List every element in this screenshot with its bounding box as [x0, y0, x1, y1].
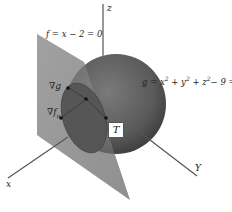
plane-equation: f = x − 2 = 0	[46, 30, 102, 39]
sphere-eq-part: + y	[169, 77, 186, 87]
sphere-eq-part: + z	[190, 77, 207, 87]
grad-g-var: g	[55, 81, 61, 91]
point-grad-g	[66, 86, 70, 90]
x-axis	[8, 137, 68, 178]
diagram-svg	[0, 0, 232, 212]
tangent-label-box: T	[108, 122, 124, 138]
z-axis-label: z	[107, 4, 112, 13]
point-center	[84, 97, 88, 101]
grad-g-label: ∇g	[49, 82, 61, 91]
y-axis	[137, 130, 197, 176]
diagram-canvas: z x Y f = x − 2 = 0 g = x2 + y2 + z2− 9 …	[0, 0, 232, 212]
sphere-eq-part: g = x	[142, 77, 165, 87]
grad-f-subscript: o	[57, 112, 61, 119]
point-tangent	[104, 116, 108, 120]
sphere-equation: g = x2 + y2 + z2− 9 = 0	[142, 78, 232, 87]
sphere-eq-part: − 9 = 0	[211, 77, 232, 87]
grad-f-label: ∇fo	[47, 108, 60, 117]
x-axis-label: x	[6, 180, 11, 189]
y-axis-label: Y	[195, 164, 201, 173]
